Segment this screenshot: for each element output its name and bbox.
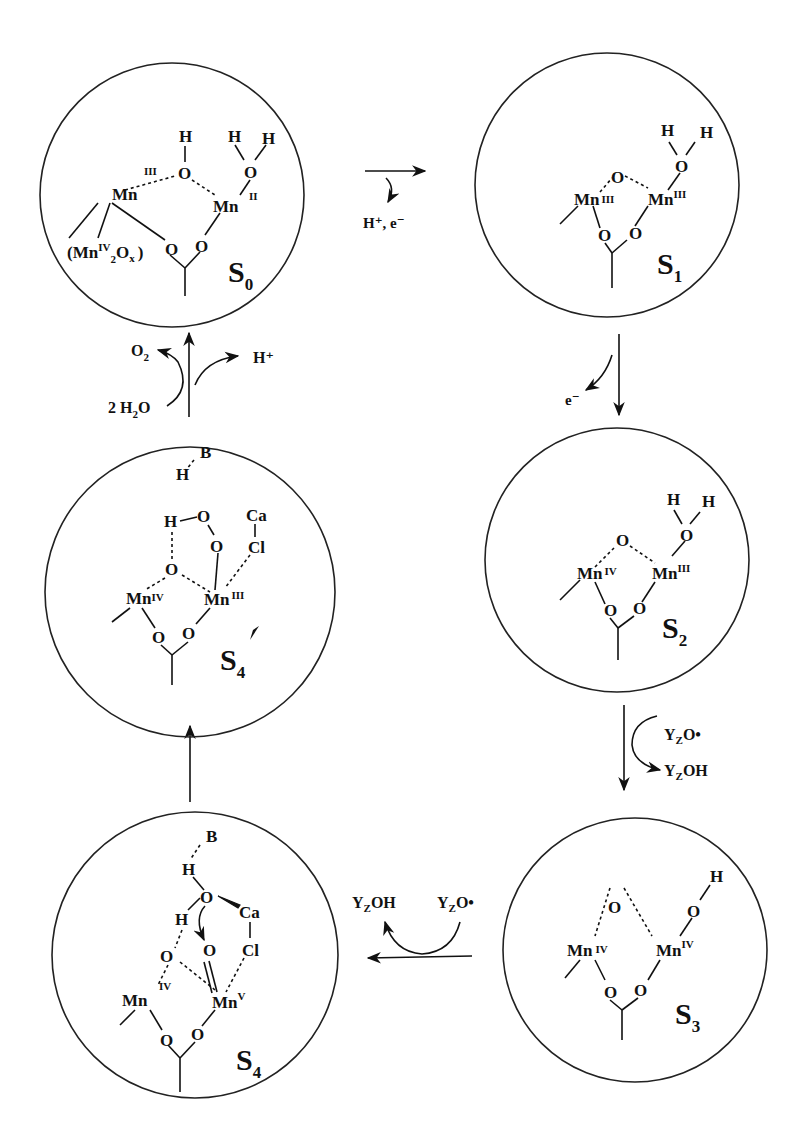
atom-mn: MnIV (126, 589, 164, 608)
atom-ca: Ca (246, 506, 267, 525)
wedge-bond (218, 896, 240, 908)
atom-b: B (206, 827, 217, 846)
s-state-cycle-diagram: H O III Mn H H O Mn II O O (MnIV2Ox) S0 … (0, 0, 789, 1142)
bond (205, 213, 220, 235)
atom-o: O (244, 163, 257, 182)
bond (595, 960, 605, 980)
atom-o: O (191, 1025, 204, 1044)
bond (196, 608, 210, 624)
bond (593, 206, 600, 228)
atom-o: O (616, 531, 629, 550)
reagent-in-label: YZO• (664, 726, 701, 746)
oxidation-state: II (249, 190, 258, 202)
atom-h: H (228, 127, 241, 146)
atom-mn: MnV (212, 990, 246, 1012)
bond (612, 240, 627, 253)
atom-o: O (160, 947, 173, 966)
atom-h: H (700, 123, 713, 142)
transition-s3-s4: YZO• YZOH (352, 894, 474, 958)
state-label-s1: S1 (657, 247, 682, 286)
state-s3-circle (503, 818, 767, 1082)
state-s3: H O O MnIV MnIV O O S3 (503, 818, 767, 1082)
atom-h: H (175, 910, 188, 929)
atom-o: O (152, 628, 165, 647)
atom-o: O (182, 624, 195, 643)
curved-arrow-icon (195, 356, 238, 385)
state-label-s0: S0 (228, 255, 253, 294)
atom-o: O (680, 526, 693, 545)
reagent-out-label: YZOH (664, 762, 708, 782)
release-label: H⁺, e⁻ (363, 215, 405, 231)
bond (112, 608, 130, 622)
atom-h: H (661, 121, 674, 140)
atom-cl: Cl (242, 941, 259, 960)
atom-mn: Mn (112, 185, 138, 204)
curved-arrow-icon (385, 922, 460, 954)
atom-o: O (200, 888, 213, 907)
state-s0-circle (40, 63, 304, 327)
atom-h: H (667, 490, 680, 509)
atom-h: H (710, 867, 723, 886)
bond (188, 898, 200, 910)
state-s2-circle (485, 428, 749, 692)
curved-arrow-icon (586, 355, 612, 390)
atom-h: H (182, 860, 195, 879)
atom-b: B (200, 443, 211, 462)
atom-o: O (178, 164, 191, 183)
bond (120, 1010, 135, 1025)
reagent-in-label: YZO• (437, 894, 474, 914)
bond (674, 510, 682, 524)
atom-mn: Mn (213, 197, 239, 216)
state-s2: H H O O MnIV MnIII O O S2 (485, 428, 749, 692)
hbond (225, 555, 250, 588)
atom-o: O (197, 507, 210, 526)
cluster-note: (MnIV2Ox) (67, 241, 143, 265)
atom-o: O (160, 1031, 173, 1050)
state-s1-circle (475, 53, 739, 317)
bond (180, 517, 197, 521)
atom-o: O (604, 983, 617, 1002)
atom-o: O (675, 157, 688, 176)
bond (98, 203, 110, 238)
state-s0: H O III Mn H H O Mn II O O (MnIV2Ox) S0 (40, 63, 304, 327)
hbond (624, 888, 652, 936)
bond (112, 203, 165, 240)
atom-o: O (611, 168, 624, 187)
atom-o: O (629, 224, 642, 243)
atom-o: O (203, 941, 216, 960)
state-label-s2: S2 (662, 611, 687, 650)
hbond (226, 958, 244, 992)
atom-o: O (210, 537, 223, 556)
bond (69, 203, 98, 238)
bond (669, 142, 677, 155)
atom-o: O (598, 226, 611, 245)
atom-ca: Ca (239, 903, 260, 922)
atom-o: O (604, 601, 617, 620)
bond (618, 616, 634, 628)
state-s4-prime-circle (45, 447, 335, 737)
atom-cl: Cl (248, 538, 265, 557)
bond (635, 206, 648, 226)
atom-mn: MnIII (204, 589, 244, 609)
transition-s1-s2: e⁻ (565, 334, 619, 415)
bond (215, 553, 218, 590)
state-s4: B H O Ca H O Cl O Mn IV MnV O O S4 (52, 812, 338, 1098)
atom-o: O (165, 560, 178, 579)
prime-mark (250, 626, 259, 640)
release-label: H⁺ (253, 349, 274, 366)
reagent-out-label: YZOH (352, 894, 396, 914)
substrate-label: 2 H2O (108, 399, 150, 420)
transition-s2-s3: YZO• YZOH (624, 705, 708, 790)
atom-h: H (176, 465, 189, 484)
bond (202, 1010, 215, 1026)
atom-mn: MnIII (652, 562, 690, 583)
hbond (625, 176, 648, 188)
oxidation-state: IV (159, 980, 171, 992)
bond (208, 525, 214, 535)
atom-mn: Mn (122, 991, 148, 1010)
bond (235, 145, 244, 160)
atom-mn: MnIII (648, 188, 686, 209)
bond (180, 1042, 195, 1058)
atom-h: H (164, 512, 177, 531)
hbond (192, 180, 215, 195)
